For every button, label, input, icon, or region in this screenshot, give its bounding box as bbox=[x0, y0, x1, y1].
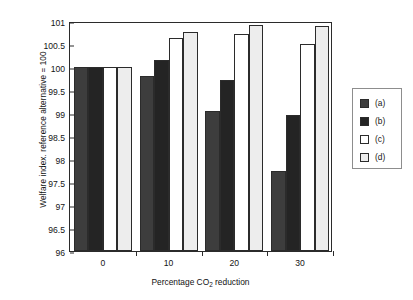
y-axis-tick-label: 96.5 bbox=[48, 225, 70, 235]
bar-10-b bbox=[154, 60, 169, 251]
x-axis-tick-mark bbox=[136, 251, 137, 256]
bar-0-c bbox=[103, 67, 118, 251]
y-axis-tick-label: 101 bbox=[51, 18, 70, 28]
bar-30-a bbox=[271, 171, 286, 252]
y-axis-tick-label: 97.5 bbox=[48, 179, 70, 189]
legend-swatch-icon bbox=[360, 135, 369, 144]
x-axis-tick-label: 30 bbox=[295, 258, 305, 268]
y-axis-tick-label: 98 bbox=[55, 156, 70, 166]
x-axis-tick-label: 10 bbox=[164, 258, 174, 268]
legend-item-d[interactable]: (d) bbox=[353, 148, 401, 166]
x-axis-title-prefix: Percentage CO bbox=[151, 277, 209, 287]
bar-0-a bbox=[74, 67, 89, 251]
x-axis-tick-label: 20 bbox=[230, 258, 240, 268]
legend: (a)(b)(c)(d) bbox=[352, 88, 402, 169]
legend-swatch-icon bbox=[360, 117, 369, 126]
bar-10-a bbox=[140, 76, 155, 251]
bar-chart: Welfare index. reference alternative = 1… bbox=[0, 0, 413, 300]
x-axis-tick-mark bbox=[333, 251, 334, 256]
legend-swatch-icon bbox=[360, 99, 369, 108]
bar-0-d bbox=[117, 67, 132, 251]
bar-20-b bbox=[220, 80, 235, 251]
y-axis-tick-label: 96 bbox=[55, 248, 70, 258]
y-axis-tick-label: 100.5 bbox=[43, 41, 70, 51]
bar-30-c bbox=[300, 44, 315, 251]
y-axis-tick-label: 100 bbox=[51, 64, 70, 74]
bar-20-a bbox=[205, 111, 220, 251]
y-axis-tick-label: 98.5 bbox=[48, 133, 70, 143]
y-axis-tick-label: 99 bbox=[55, 110, 70, 120]
y-axis-tick-mark bbox=[70, 253, 74, 254]
x-axis-title-subscript: 2 bbox=[209, 281, 213, 288]
legend-label: (d) bbox=[375, 153, 385, 161]
legend-label: (a) bbox=[375, 99, 385, 107]
bar-20-d bbox=[249, 25, 264, 251]
bar-10-d bbox=[183, 32, 198, 251]
y-axis-tick-mark bbox=[70, 46, 74, 47]
y-axis-tick-label: 99.5 bbox=[48, 87, 70, 97]
x-axis-tick-label: 0 bbox=[100, 258, 105, 268]
y-axis-tick-mark bbox=[70, 23, 74, 24]
x-axis-title: Percentage CO2 reduction bbox=[69, 277, 332, 287]
legend-item-c[interactable]: (c) bbox=[353, 130, 401, 148]
bar-20-c bbox=[234, 34, 249, 251]
legend-label: (c) bbox=[375, 135, 385, 143]
x-axis-tick-mark bbox=[267, 251, 268, 256]
legend-item-a[interactable]: (a) bbox=[353, 94, 401, 112]
bar-30-b bbox=[286, 115, 301, 251]
bar-0-b bbox=[88, 67, 103, 251]
legend-swatch-icon bbox=[360, 153, 369, 162]
legend-label: (b) bbox=[375, 117, 385, 125]
bar-30-d bbox=[315, 26, 330, 251]
plot-area: 9696.59797.59898.59999.5100100.510101020… bbox=[69, 22, 332, 252]
x-axis-title-suffix: reduction bbox=[213, 277, 250, 287]
x-axis-tick-mark bbox=[202, 251, 203, 256]
bar-10-c bbox=[169, 38, 184, 251]
y-axis-tick-label: 97 bbox=[55, 202, 70, 212]
legend-item-b[interactable]: (b) bbox=[353, 112, 401, 130]
